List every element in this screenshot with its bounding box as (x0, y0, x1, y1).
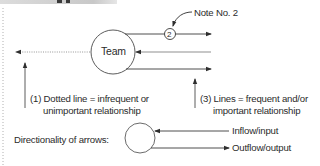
annotation-1-line2: unimportant relationship (43, 105, 141, 116)
note-marker-label: 2 (167, 29, 171, 40)
legend-title: Directionality of arrows: (14, 134, 109, 145)
legend-circle (125, 123, 155, 153)
team-label: Team (101, 46, 126, 57)
annotation-3-line2: important relationship (213, 105, 300, 116)
note-leader-arrow (173, 12, 192, 26)
note-callout-label: Note No. 2 (194, 7, 238, 18)
legend-outflow-label: Outflow/output (232, 142, 291, 153)
annotation-3-line1: (3) Lines = frequent and/or (200, 93, 308, 104)
legend-inflow-label: Inflow/input (232, 125, 278, 136)
annotation-1-line1: (1) Dotted line = infrequent or (30, 93, 149, 104)
